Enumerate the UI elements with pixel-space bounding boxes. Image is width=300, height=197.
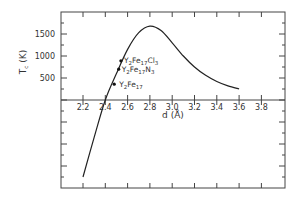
point-label: Y2Fe17 [118,80,143,90]
data-point [113,83,116,86]
x-tick-label: 2.2 [77,103,90,112]
y-tick-label: 1500 [35,30,55,39]
tc-curve [83,26,239,177]
x-axis-title: d (Å) [162,109,184,120]
x-tick-label: 3.8 [255,103,268,112]
x-tick-label: 3.2 [188,103,201,112]
data-point [117,68,120,71]
y-tick-label: 1000 [35,52,55,61]
point-annotations: Y2Fe17Cl3Y2Fe17N3Y2Fe17 [118,56,159,90]
x-tick-label: 2.6 [121,103,134,112]
point-label: Y2Fe17Cl3 [123,56,159,66]
x-tick-label: 2.8 [144,103,157,112]
point-label: Y2Fe17N3 [121,65,155,75]
y-tick-labels: 50010001500 [35,30,55,83]
y-axis-title: Tc (K) [18,50,29,75]
x-tick-label: 3.4 [210,103,223,112]
x-tick-label: 3.6 [233,103,246,112]
chart: 2.22.42.62.83.03.23.43.63.8 50010001500 … [0,0,300,197]
data-point [119,59,122,62]
y-tick-label: 500 [40,74,55,83]
x-tick-label: 2.4 [99,103,112,112]
